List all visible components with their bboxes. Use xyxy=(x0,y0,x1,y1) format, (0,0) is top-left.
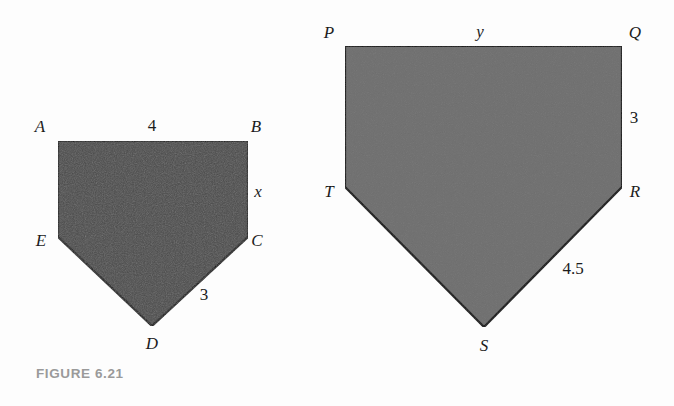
vertex-label-s: S xyxy=(480,336,489,355)
measure-label-rs: 4.5 xyxy=(562,259,583,278)
pentagon-pqrst-group: P Q R S T y 3 4.5 xyxy=(323,22,641,355)
vertex-label-b: B xyxy=(251,117,262,136)
pentagon-abcde-shape xyxy=(58,141,248,326)
measure-label-ab: 4 xyxy=(148,116,157,135)
pentagon-abcde-group: A B C D E 4 x 3 xyxy=(34,116,264,353)
vertex-label-a: A xyxy=(34,117,46,136)
vertex-label-d: D xyxy=(145,334,159,353)
vertex-label-c: C xyxy=(251,231,263,250)
measure-label-bc: x xyxy=(253,182,262,201)
vertex-label-r: R xyxy=(629,182,641,201)
figure-caption: FIGURE 6.21 xyxy=(36,366,124,381)
vertex-label-p: P xyxy=(323,23,334,42)
figure-container: A B C D E 4 x 3 P Q R S T y 3 4.5 FIGURE… xyxy=(0,0,674,406)
vertex-label-t: T xyxy=(324,182,335,201)
measure-label-cd: 3 xyxy=(200,285,209,304)
measure-label-qr: 3 xyxy=(630,108,639,127)
measure-label-pq: y xyxy=(474,22,484,41)
vertex-label-e: E xyxy=(35,231,47,250)
figure-svg: A B C D E 4 x 3 P Q R S T y 3 4.5 xyxy=(0,0,674,406)
pentagon-pqrst-shape xyxy=(345,46,622,327)
vertex-label-q: Q xyxy=(629,23,641,42)
